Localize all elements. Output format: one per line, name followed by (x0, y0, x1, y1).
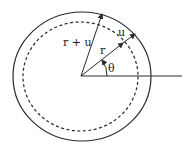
theta-arc (102, 60, 107, 76)
diagram-canvas: r + u r u θ (0, 0, 190, 155)
label-u: u (118, 26, 125, 39)
label-theta: θ (108, 62, 115, 75)
label-r: r (100, 44, 106, 57)
label-r-plus-u: r + u (63, 36, 92, 49)
